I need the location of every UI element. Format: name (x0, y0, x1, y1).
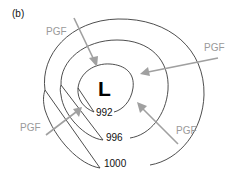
isobar-label-1000: 1000 (104, 158, 127, 169)
pgf-arrow-right: PGF (140, 42, 225, 76)
arrowhead-icon (140, 67, 150, 76)
pgf-label: PGF (204, 42, 225, 53)
pgf-arrow-bottom-right: PGF (137, 102, 197, 144)
pgf-label: PGF (46, 26, 67, 37)
pgf-label: PGF (176, 125, 197, 136)
isobar-label-992: 992 (96, 107, 113, 118)
pgf-label: PGF (20, 122, 41, 133)
low-pressure-label: L (98, 77, 111, 100)
isobar-996 (60, 40, 168, 140)
arrowhead-icon (73, 107, 82, 117)
pressure-gradient-diagram: (b) L 992 996 1000 PGF PGF PGF PGF (0, 0, 234, 180)
pgf-arrow-top-left: PGF (46, 18, 98, 67)
isobar-label-996: 996 (106, 132, 123, 143)
arrowhead-icon (89, 56, 98, 67)
panel-label: (b) (12, 8, 24, 19)
